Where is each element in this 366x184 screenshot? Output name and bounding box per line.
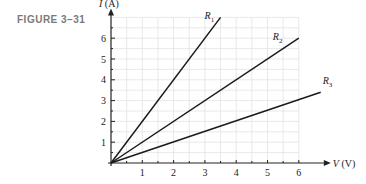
y-tick-label: 1	[101, 137, 106, 148]
x-tick-label: 3	[202, 167, 207, 178]
y-axis-label: I (A)	[98, 0, 119, 10]
x-tick-label: 5	[265, 167, 270, 178]
iv-chart: 123456123456I (A)V (V) R1R2R3	[0, 0, 366, 184]
series-label: R2	[272, 31, 283, 45]
x-tick-label: 2	[171, 167, 176, 178]
x-axis-arrow-icon	[324, 160, 331, 166]
y-axis-arrow-icon	[108, 8, 114, 15]
x-tick-label: 1	[140, 167, 145, 178]
y-tick-label: 5	[101, 54, 106, 65]
x-axis-label: V (V)	[333, 158, 356, 170]
y-tick-label: 3	[101, 95, 106, 106]
series-label: R3	[322, 75, 333, 89]
x-tick-label: 6	[296, 167, 301, 178]
x-tick-label: 4	[234, 167, 239, 178]
y-tick-label: 2	[101, 116, 106, 127]
y-tick-label: 6	[101, 33, 106, 44]
y-tick-label: 4	[101, 74, 106, 85]
